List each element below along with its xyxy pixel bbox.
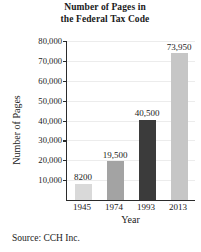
source-note: Source: CCH Inc. bbox=[12, 233, 80, 243]
bar: 19,500 bbox=[107, 161, 124, 200]
chart-figure: Number of Pages in the Federal Tax Code … bbox=[0, 0, 201, 252]
y-axis-tick bbox=[63, 81, 67, 82]
y-axis-tick bbox=[63, 160, 67, 161]
y-axis-tick-label: 30,000 bbox=[38, 136, 62, 145]
y-axis-tick-label: 70,000 bbox=[38, 57, 62, 66]
bar-value-label: 73,950 bbox=[167, 43, 192, 52]
bar-value-label: 8200 bbox=[74, 173, 92, 182]
y-axis-tick-label: 50,000 bbox=[38, 96, 62, 105]
y-axis-tick-label: 60,000 bbox=[38, 76, 62, 85]
x-axis-tick-label: 1945 bbox=[73, 203, 91, 212]
y-axis-tick-label: 40,000 bbox=[38, 116, 62, 125]
x-axis-line bbox=[66, 200, 195, 201]
y-axis-tick bbox=[63, 121, 67, 122]
y-axis-tick bbox=[63, 61, 67, 62]
bar-value-label: 19,500 bbox=[103, 151, 128, 160]
y-axis-tick bbox=[63, 41, 67, 42]
y-axis-tick bbox=[63, 140, 67, 141]
y-axis-tick-label: 20,000 bbox=[38, 156, 62, 165]
bar: 8200 bbox=[75, 184, 92, 200]
y-axis-title: Number of Pages bbox=[8, 60, 24, 200]
y-axis-tick-label: 80,000 bbox=[38, 37, 62, 46]
y-axis-tick-label: 10,000 bbox=[38, 176, 62, 185]
y-axis-tick bbox=[63, 180, 67, 181]
chart-title: Number of Pages in the Federal Tax Code bbox=[30, 2, 180, 25]
bar: 40,500 bbox=[139, 120, 156, 200]
y-axis-title-text: Number of Pages bbox=[11, 95, 22, 164]
chart-title-line-2: the Federal Tax Code bbox=[30, 14, 180, 26]
x-axis-tick-label: 1974 bbox=[105, 203, 123, 212]
chart-title-line-1: Number of Pages in bbox=[30, 2, 180, 14]
plot-area: 10,00020,00030,00040,00050,00060,00070,0… bbox=[66, 41, 194, 200]
x-axis-title: Year bbox=[66, 214, 195, 225]
x-axis-tick-label: 2013 bbox=[169, 203, 187, 212]
x-axis-tick-label: 1993 bbox=[137, 203, 155, 212]
y-axis-tick bbox=[63, 101, 67, 102]
bar: 73,950 bbox=[171, 53, 188, 200]
bar-value-label: 40,500 bbox=[135, 109, 160, 118]
